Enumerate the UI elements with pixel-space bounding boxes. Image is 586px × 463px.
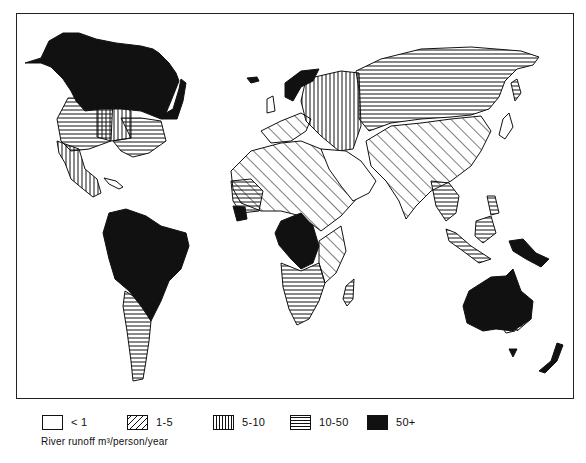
- region-eastern-europe: [301, 71, 361, 151]
- region-borneo: [475, 216, 496, 243]
- legend-label: 50+: [396, 416, 416, 428]
- swatch-horizontal-icon: [290, 415, 311, 430]
- swatch-solid-icon: [367, 415, 388, 430]
- legend-item-1-5: 1-5: [127, 413, 173, 431]
- region-southern-africa: [281, 263, 325, 325]
- region-russia: [356, 47, 539, 131]
- region-new-zealand: [539, 343, 563, 373]
- region-tasmania: [509, 349, 517, 357]
- world-map: [16, 13, 574, 399]
- legend-label: 10-50: [319, 416, 349, 428]
- region-south-asia: [366, 116, 491, 219]
- legend-label: < 1: [71, 416, 88, 428]
- region-uk: [267, 96, 275, 113]
- region-new-guinea: [509, 239, 549, 267]
- region-kamchatka: [511, 79, 521, 101]
- region-southeast-asia: [431, 181, 459, 221]
- region-caribbean: [104, 178, 123, 189]
- legend-item-lt1: < 1: [42, 413, 88, 431]
- swatch-vertical-icon: [213, 415, 234, 430]
- legend-item-10-50: 10-50: [290, 413, 349, 431]
- region-mexico: [57, 141, 101, 197]
- legend-item-5-10: 5-10: [213, 413, 265, 431]
- region-west-africa-coast: [233, 206, 247, 221]
- region-south-america-north: [103, 209, 189, 321]
- legend: < 1 1-5 5-10 10-50 50+: [0, 413, 586, 435]
- region-western-europe: [261, 113, 311, 143]
- legend-caption: River runoff m³/person/year: [41, 436, 168, 447]
- region-madagascar: [343, 279, 354, 306]
- region-philippines: [487, 196, 499, 215]
- region-iceland: [247, 77, 259, 83]
- region-japan: [499, 113, 513, 139]
- legend-label: 1-5: [156, 416, 173, 428]
- swatch-diagonal-icon: [127, 415, 148, 430]
- region-east-africa: [319, 226, 346, 283]
- legend-item-50plus: 50+: [367, 413, 416, 431]
- map-canvas: [17, 14, 572, 397]
- swatch-empty-icon: [42, 415, 63, 430]
- legend-label: 5-10: [242, 416, 265, 428]
